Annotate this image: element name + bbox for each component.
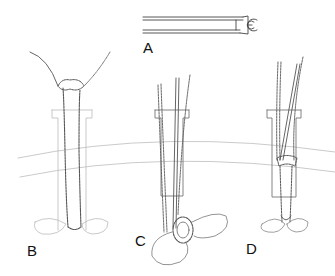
panel-b-drawing (30, 52, 110, 234)
panel-a-instrument (143, 16, 257, 34)
panel-label-b: B (27, 243, 37, 258)
panel-label-d: D (246, 241, 257, 256)
diagram-drawing (0, 0, 335, 276)
figure: A B C D (0, 0, 335, 276)
panel-c-drawing (152, 75, 228, 265)
panel-label-a: A (143, 40, 153, 55)
panel-label-c: C (135, 233, 146, 248)
